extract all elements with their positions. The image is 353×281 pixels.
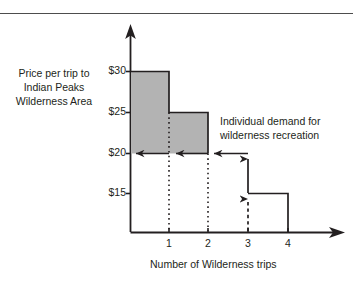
x-axis-title: Number of Wilderness trips bbox=[150, 258, 277, 271]
x-tick-label-4: 4 bbox=[279, 237, 297, 249]
demand-curve-annotation: Individual demand for wilderness recreat… bbox=[220, 114, 320, 142]
y-tick-label-30: $30 bbox=[92, 64, 126, 76]
open-step-bar-15 bbox=[248, 194, 288, 233]
y-axis-title: Price per trip to Indian Peaks Wildernes… bbox=[4, 66, 104, 108]
x-tick-label-1: 1 bbox=[160, 237, 178, 249]
x-tick-label-2: 2 bbox=[199, 237, 217, 249]
y-tick-label-20: $20 bbox=[92, 146, 126, 158]
y-tick-label-25: $25 bbox=[92, 105, 126, 117]
x-tick-label-3: 3 bbox=[239, 237, 257, 249]
y-tick-label-15: $15 bbox=[92, 186, 126, 198]
economics-demand-figure: Price per trip to Indian Peaks Wildernes… bbox=[0, 0, 353, 281]
